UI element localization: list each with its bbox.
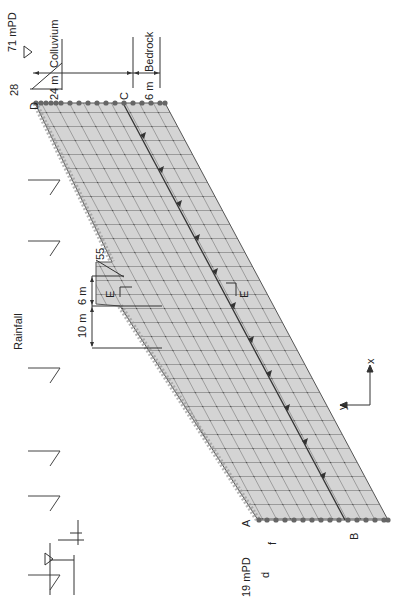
axis-y-label: y	[336, 405, 348, 411]
water-level-triangle-top	[24, 46, 32, 58]
bedrock-thickness-label: 6 m	[143, 82, 155, 100]
rainfall-arrows	[28, 180, 60, 590]
slope-mesh-figure: 71 mPD 28 D 24 m Colluvium C 6 m Bedrock…	[0, 0, 411, 599]
colluvium-label: Colluvium	[48, 20, 60, 68]
cut-angle-label: 55	[94, 248, 106, 260]
axis-indicator	[340, 365, 373, 408]
point-c-label: C	[118, 92, 130, 100]
point-b-label: B	[348, 533, 360, 540]
bottom-dimensions	[50, 520, 84, 595]
section-mark-e1: E	[104, 291, 116, 298]
rainfall-label: Rainfall	[12, 313, 24, 350]
mesh-body	[35, 103, 388, 520]
point-a-label: A	[240, 520, 252, 527]
cut-height-label: 10 m	[76, 314, 88, 338]
berm-width-label: 6 m	[76, 287, 88, 305]
axis-x-label: x	[364, 359, 376, 365]
point-d-label: D	[28, 102, 40, 110]
dim-f-label: f	[266, 542, 278, 545]
colluvium-thickness-label: 24 m	[48, 76, 60, 100]
slope-angle-label: 28	[8, 84, 20, 96]
mesh-diagram	[0, 0, 411, 599]
top-elevation-label: 71 mPD	[6, 12, 18, 52]
toe-elevation-label: 19 mPD	[240, 557, 252, 597]
section-mark-e2: E	[238, 291, 250, 298]
dim-d-label: d	[259, 572, 271, 578]
water-level-triangle-bottom	[45, 553, 53, 565]
bedrock-label: Bedrock	[143, 32, 155, 72]
